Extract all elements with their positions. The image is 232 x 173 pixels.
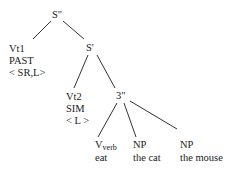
node-vverb-word: eat: [95, 152, 107, 164]
node-np1-word: the cat: [133, 152, 161, 164]
edge-s2-vt1: [33, 21, 51, 39]
node-vt1-features: < SR,L>: [9, 67, 45, 79]
node-np2-label: NP: [180, 139, 193, 151]
edge-s1-n3: [97, 55, 115, 88]
edge-n3-np1: [124, 103, 136, 137]
node-vt1-tense: PAST: [9, 55, 34, 67]
node-vt1-label: Vt1: [9, 43, 25, 55]
node-vt2-features: < L >: [66, 115, 89, 127]
edge-s1-vt2: [74, 55, 88, 88]
edge-n3-np2: [130, 101, 177, 129]
node-vverb-label: V: [95, 139, 103, 150]
edge-n3-vverb: [98, 103, 117, 137]
node-s-prime: S': [86, 42, 94, 54]
node-vverb-subscript: verb: [103, 143, 117, 152]
node-np1-label: NP: [133, 139, 146, 151]
node-s-double-prime: S": [52, 9, 62, 21]
edge-s2-s1: [63, 21, 84, 39]
node-np2-word: the mouse: [180, 152, 223, 164]
node-vt2-aspect: SIM: [66, 103, 85, 115]
node-3-double-prime: 3": [116, 90, 126, 102]
node-vt2-label: Vt2: [66, 91, 82, 103]
